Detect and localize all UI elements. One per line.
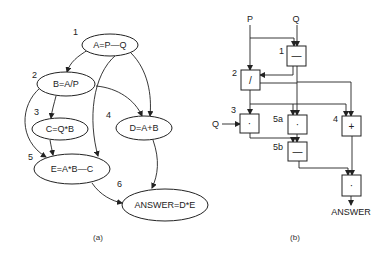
step-number: 5a: [273, 114, 283, 124]
op-symbol: ·: [296, 119, 299, 130]
node-label: A=P—Q: [93, 40, 126, 50]
node-answer-eq-d-times-e: ANSWER=D*E 6: [117, 179, 208, 221]
edge-2-3: [51, 96, 56, 118]
box-5a-multiply: · 5a: [273, 114, 307, 134]
node-b-eq-a-div-p: B=A/P 2: [32, 70, 95, 96]
wire-1-to-4: [297, 82, 351, 116]
wire-p-to-1: [250, 38, 294, 46]
step-number: 2: [32, 70, 37, 80]
box-3-multiply: · 3: [231, 105, 259, 133]
edge-2-4: [96, 86, 142, 116]
input-q-label-2: Q: [212, 119, 219, 129]
node-label: D=A+B: [129, 123, 158, 133]
box-5b-subtract: — 5b: [273, 142, 307, 161]
step-number: 1: [73, 27, 78, 37]
wire-5b-to-6: [299, 161, 348, 175]
step-number: 1: [279, 46, 284, 56]
input-p-label: P: [247, 14, 253, 24]
edge-1-5: [93, 55, 116, 156]
node-d-eq-a-plus-b: D=A+B 4: [106, 110, 172, 140]
step-number: 5b: [273, 142, 283, 152]
edge-3-5: [50, 140, 53, 155]
step-number: 3: [231, 105, 236, 115]
panel-a-caption: (a): [93, 233, 103, 242]
box-6-multiply: ·: [342, 175, 361, 196]
op-symbol: ·: [350, 180, 353, 191]
output-answer-label: ANSWER: [331, 207, 371, 217]
edge-1-2: [67, 50, 88, 72]
node-label: C=Q*B: [46, 124, 74, 134]
step-number: 5: [28, 152, 33, 162]
step-number: 2: [232, 68, 237, 78]
edge-1-4: [131, 53, 150, 116]
op-symbol: /: [249, 75, 252, 86]
input-q-label: Q: [292, 14, 299, 24]
node-e-eq-a-times-b-minus-c: E=A*B—C 5: [28, 152, 110, 184]
node-c-eq-q-times-b: C=Q*B 3: [32, 107, 88, 140]
box-4-add: + 4: [333, 114, 361, 136]
dataflow-figure: A=P—Q 1 B=A/P 2 C=Q*B 3 D=A+B 4 E=A*B—C …: [0, 0, 384, 255]
wire-2-to-4: [293, 104, 346, 116]
edge-4-6: [152, 140, 157, 188]
node-a-eq-p-minus-q: A=P—Q 1: [73, 27, 138, 56]
op-symbol: ·: [248, 118, 251, 129]
step-number: 4: [106, 110, 111, 120]
step-number: 3: [34, 107, 39, 117]
wire-2-to-5a: [250, 104, 293, 115]
step-number: 6: [117, 179, 122, 189]
box-1-subtract: — 1: [279, 46, 306, 66]
op-symbol: +: [349, 121, 355, 132]
box-2-divide: / 2: [232, 68, 260, 90]
op-symbol: —: [293, 146, 303, 157]
panel-a-graph: A=P—Q 1 B=A/P 2 C=Q*B 3 D=A+B 4 E=A*B—C …: [25, 27, 208, 242]
step-number: 4: [333, 114, 338, 124]
panel-b-caption: (b): [290, 233, 300, 242]
node-label: ANSWER=D*E: [135, 200, 196, 210]
node-label: E=A*B—C: [51, 164, 94, 174]
wire-1-to-2: [260, 66, 293, 75]
wire-3-to-5b: [250, 133, 293, 142]
op-symbol: —: [292, 50, 302, 61]
node-label: B=A/P: [53, 79, 79, 89]
panel-b-circuit: P Q Q —: [212, 14, 371, 242]
